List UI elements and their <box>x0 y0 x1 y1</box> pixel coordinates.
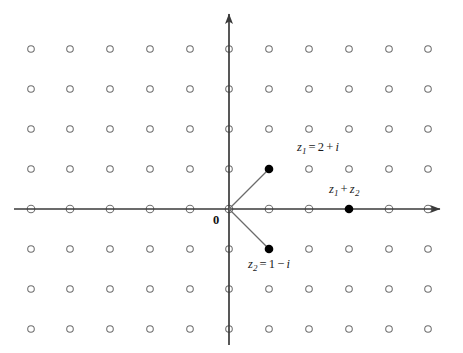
grid-dot <box>425 166 432 173</box>
grid-dot <box>28 326 35 333</box>
grid-dot <box>67 166 74 173</box>
diagram-canvas <box>0 0 463 353</box>
label-z1: z1=2+i <box>297 141 339 156</box>
grid-dot <box>107 86 114 93</box>
grid-dot <box>107 286 114 293</box>
grid-dot <box>107 326 114 333</box>
grid-dot <box>386 286 393 293</box>
grid-dot <box>306 86 313 93</box>
point-z1-plus-z2 <box>345 205 354 214</box>
grid-dot <box>187 126 194 133</box>
label-z2-eq: = <box>258 257 269 271</box>
point-z1 <box>265 165 274 174</box>
grid-dot <box>147 326 154 333</box>
grid-dot <box>67 246 74 253</box>
grid-dot <box>346 286 353 293</box>
grid-dot <box>187 166 194 173</box>
grid-dot <box>346 86 353 93</box>
grid-dot <box>346 46 353 53</box>
grid-dot <box>425 246 432 253</box>
label-sum-op: + <box>339 182 350 196</box>
grid-dot <box>425 286 432 293</box>
grid-dot <box>67 126 74 133</box>
segment-origin-to-z1 <box>229 169 269 209</box>
segment-origin-to-z2 <box>229 209 269 249</box>
label-z1-op: + <box>324 140 335 154</box>
complex-plane-figure: z1=2+i z2=1−i z1+z2 0 <box>0 0 463 353</box>
grid-dot <box>386 246 393 253</box>
grid-dot <box>107 126 114 133</box>
grid-dot <box>187 46 194 53</box>
grid-dot <box>147 46 154 53</box>
label-z1-sub: 1 <box>302 146 307 156</box>
origin-label: 0 <box>213 214 219 227</box>
grid-dot <box>306 126 313 133</box>
label-z1-eq: = <box>307 140 318 154</box>
grid-dot <box>306 286 313 293</box>
grid-dot <box>187 326 194 333</box>
point-z2 <box>265 245 274 254</box>
grid-dot <box>386 166 393 173</box>
grid-dot <box>386 46 393 53</box>
axes <box>14 14 440 345</box>
grid-dot <box>107 46 114 53</box>
grid-dot <box>306 46 313 53</box>
grid-dot <box>107 246 114 253</box>
grid-dot <box>425 126 432 133</box>
grid-dot <box>187 286 194 293</box>
grid-dot <box>266 46 273 53</box>
grid-dot <box>147 86 154 93</box>
grid-dot <box>386 326 393 333</box>
grid-dot <box>425 86 432 93</box>
grid-dot <box>266 326 273 333</box>
label-z2-imag: i <box>287 257 291 271</box>
grid-dot <box>147 286 154 293</box>
label-z2-sub: 2 <box>253 263 258 273</box>
label-z1-plus-z2: z1+z2 <box>329 183 359 198</box>
label-z1-imag: i <box>336 140 340 154</box>
grid-dot <box>28 46 35 53</box>
label-sum-sub2: 2 <box>355 188 360 198</box>
grid-dot <box>346 246 353 253</box>
grid-dot <box>147 166 154 173</box>
grid-dot <box>425 46 432 53</box>
grid-dot <box>187 86 194 93</box>
grid-dot <box>306 326 313 333</box>
grid-dot <box>346 326 353 333</box>
grid-dot <box>306 166 313 173</box>
grid-dot <box>266 86 273 93</box>
grid-dot <box>386 126 393 133</box>
grid-dot <box>67 46 74 53</box>
label-z2-op: − <box>275 257 286 271</box>
grid-dot <box>67 326 74 333</box>
grid-dot <box>187 246 194 253</box>
grid-dot <box>67 86 74 93</box>
label-sum-sub1: 1 <box>334 188 339 198</box>
grid-dot <box>28 246 35 253</box>
grid-dot <box>266 286 273 293</box>
grid-dot <box>346 126 353 133</box>
grid-dot <box>147 246 154 253</box>
label-z2: z2=1−i <box>248 258 290 273</box>
grid-dot <box>147 126 154 133</box>
grid-dot <box>28 86 35 93</box>
grid-dot <box>306 246 313 253</box>
grid-dot <box>266 126 273 133</box>
grid-dot <box>107 166 114 173</box>
grid-dot <box>386 86 393 93</box>
grid-dot <box>28 166 35 173</box>
grid-dot <box>425 326 432 333</box>
grid-dot <box>67 286 74 293</box>
grid-dot <box>28 126 35 133</box>
grid-dot <box>28 286 35 293</box>
grid-dot <box>346 166 353 173</box>
